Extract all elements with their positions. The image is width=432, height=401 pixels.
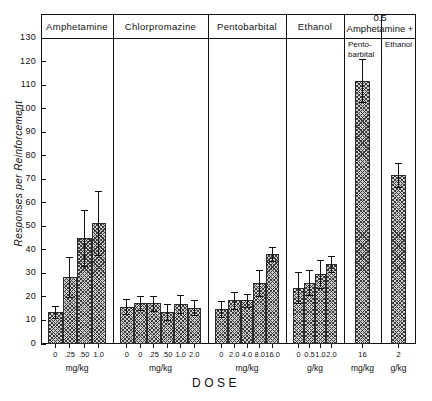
- error-bar-cap: [95, 255, 102, 256]
- error-bar: [221, 301, 222, 317]
- error-bar-cap: [137, 310, 144, 311]
- error-bar-cap: [150, 296, 157, 297]
- error-bar-cap: [244, 307, 251, 308]
- y-tick-label: 20: [6, 291, 36, 301]
- error-bar-cap: [306, 270, 313, 271]
- x-tick: [140, 344, 141, 348]
- y-tick-label: 90: [6, 126, 36, 136]
- error-bar: [298, 272, 299, 303]
- error-bar: [272, 247, 273, 261]
- error-bar-cap: [81, 266, 88, 267]
- error-bar: [320, 260, 321, 287]
- error-bar-cap: [359, 59, 366, 60]
- y-tick: [41, 179, 46, 180]
- x-tick: [84, 344, 85, 348]
- y-tick: [41, 108, 46, 109]
- error-bar: [247, 294, 248, 307]
- y-tick-label: 70: [6, 173, 36, 183]
- panel-subheader-pentobarbital: Pento-barbital: [344, 40, 381, 59]
- error-bar: [194, 300, 195, 316]
- error-bar: [234, 292, 235, 308]
- y-tick: [41, 226, 46, 227]
- panel-divider: [208, 14, 209, 344]
- error-bar-cap: [191, 300, 198, 301]
- error-bar: [69, 257, 70, 297]
- x-tick: [180, 344, 181, 348]
- x-tick: [153, 344, 154, 348]
- error-bar-cap: [123, 299, 130, 300]
- x-tick: [259, 344, 260, 348]
- x-axis-unit-label: mg/kg: [113, 363, 208, 373]
- error-bar-cap: [231, 292, 238, 293]
- error-bar-cap: [317, 260, 324, 261]
- error-bar-cap: [95, 191, 102, 192]
- error-bar-cap: [317, 288, 324, 289]
- error-bar-cap: [150, 311, 157, 312]
- panel-header-pentobarbital: Pentobarbital: [208, 14, 286, 38]
- y-tick: [41, 132, 46, 133]
- y-tick-label: 0: [6, 338, 36, 348]
- error-bar-cap: [66, 257, 73, 258]
- error-bar: [153, 296, 154, 312]
- error-bar-cap: [52, 306, 59, 307]
- error-bar: [398, 163, 399, 188]
- error-bar: [98, 191, 99, 255]
- x-tick: [309, 344, 310, 348]
- error-bar: [259, 270, 260, 296]
- x-axis-title: DOSE: [0, 376, 432, 390]
- bar: [355, 81, 370, 344]
- error-bar-cap: [164, 320, 171, 321]
- y-tick: [41, 273, 46, 274]
- y-tick-label: 40: [6, 244, 36, 254]
- y-tick-label: 120: [6, 56, 36, 66]
- y-tick-label: 60: [6, 197, 36, 207]
- y-tick: [41, 61, 46, 62]
- error-bar-cap: [191, 315, 198, 316]
- error-bar-cap: [328, 256, 335, 257]
- y-tick-label: 30: [6, 267, 36, 277]
- error-bar-cap: [231, 309, 238, 310]
- x-tick: [69, 344, 70, 348]
- x-tick: [55, 344, 56, 348]
- x-tick: [247, 344, 248, 348]
- error-bar: [140, 296, 141, 310]
- x-tick-label: 16.0: [261, 350, 285, 359]
- panel-header-chlorpromazine: Chlorpromazine: [113, 14, 208, 38]
- y-tick-label: 10: [6, 314, 36, 324]
- error-bar-cap: [359, 102, 366, 103]
- x-tick: [126, 344, 127, 348]
- error-bar-cap: [256, 270, 263, 271]
- y-tick-label: 50: [6, 220, 36, 230]
- error-bar-cap: [66, 297, 73, 298]
- x-tick-label: 2.0: [320, 350, 344, 359]
- y-tick: [41, 344, 46, 345]
- x-tick: [194, 344, 195, 348]
- y-tick: [41, 296, 46, 297]
- x-tick: [272, 344, 273, 348]
- panel-header-amphetamine-combination: 0.5Amphetamine +: [344, 12, 416, 38]
- x-tick: [98, 344, 99, 348]
- error-bar: [55, 306, 56, 318]
- x-tick-label: 2: [387, 350, 411, 359]
- error-bar: [362, 59, 363, 102]
- bar: [266, 254, 279, 344]
- y-tick-label: 130: [6, 32, 36, 42]
- x-tick: [221, 344, 222, 348]
- bar: [326, 264, 337, 344]
- error-bar-cap: [295, 272, 302, 273]
- error-bar-cap: [269, 247, 276, 248]
- error-bar-cap: [164, 304, 171, 305]
- error-bar-cap: [395, 163, 402, 164]
- error-bar-cap: [177, 295, 184, 296]
- error-bar: [331, 256, 332, 272]
- y-tick: [41, 202, 46, 203]
- error-bar: [126, 299, 127, 314]
- x-axis-unit-label: mg/kg: [208, 363, 286, 373]
- y-tick: [41, 320, 46, 321]
- panel-divider: [381, 14, 382, 344]
- error-bar-cap: [81, 210, 88, 211]
- x-axis-unit-label: mg/kg: [41, 363, 113, 373]
- error-bar-cap: [123, 314, 130, 315]
- x-tick: [234, 344, 235, 348]
- x-tick: [398, 344, 399, 348]
